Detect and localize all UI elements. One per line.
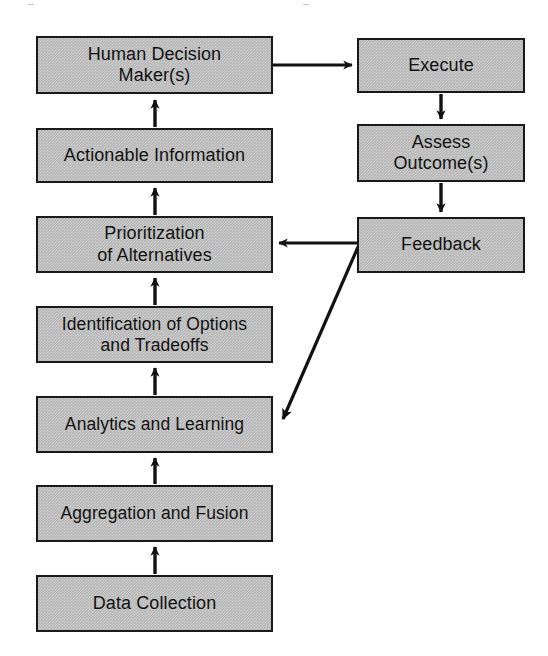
node-identification-of-options-and-tradeoffs[interactable]: Identification of Options and Tradeoffs (36, 306, 273, 363)
node-label: Analytics and Learning (65, 414, 244, 435)
node-analytics-and-learning[interactable]: Analytics and Learning (36, 396, 273, 453)
node-execute[interactable]: Execute (357, 38, 525, 93)
node-actionable-information[interactable]: Actionable Information (36, 128, 273, 183)
node-label: Execute (408, 55, 474, 76)
node-assess-outcomes[interactable]: Assess Outcome(s) (357, 124, 525, 182)
edge-feedback-to-analytics (283, 247, 358, 419)
node-aggregation-and-fusion[interactable]: Aggregation and Fusion (36, 485, 273, 542)
node-data-collection[interactable]: Data Collection (36, 575, 273, 632)
node-label: Feedback (401, 234, 481, 255)
node-label: Data Collection (93, 593, 217, 614)
cropped-caption-fragment-left: ▄ (28, 0, 34, 5)
diagram-canvas: ▄ ▄ (0, 0, 548, 656)
node-label: Human Decision Maker(s) (88, 44, 221, 86)
node-prioritization-of-alternatives[interactable]: Prioritization of Alternatives (36, 216, 273, 273)
node-label: Actionable Information (64, 145, 245, 166)
node-label: Aggregation and Fusion (60, 503, 248, 524)
node-feedback[interactable]: Feedback (357, 217, 525, 273)
node-label: Assess Outcome(s) (393, 132, 488, 174)
node-label: Prioritization of Alternatives (97, 223, 212, 265)
cropped-caption-fragment-right: ▄ (303, 0, 309, 5)
node-label: Identification of Options and Tradeoffs (62, 314, 247, 355)
node-human-decision-maker[interactable]: Human Decision Maker(s) (36, 36, 273, 94)
